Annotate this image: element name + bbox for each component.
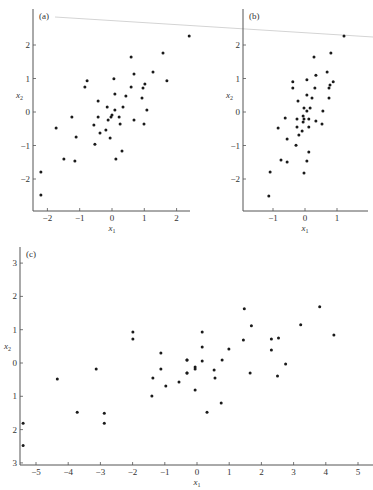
data-point bbox=[39, 194, 42, 197]
data-point bbox=[214, 377, 217, 380]
data-point bbox=[75, 136, 78, 139]
data-point bbox=[22, 444, 25, 447]
data-point bbox=[99, 132, 102, 135]
data-point bbox=[326, 71, 329, 74]
data-point bbox=[321, 123, 324, 126]
data-point bbox=[332, 334, 335, 337]
data-point bbox=[227, 348, 230, 351]
data-point bbox=[311, 96, 314, 99]
panel-label: (a) bbox=[39, 11, 49, 21]
data-point bbox=[159, 368, 162, 371]
x-tick-label: 2 bbox=[259, 467, 264, 477]
data-point bbox=[286, 138, 289, 141]
data-point bbox=[70, 116, 73, 119]
data-point bbox=[321, 110, 324, 113]
data-point bbox=[142, 86, 145, 89]
y-tick-label: 2 bbox=[236, 40, 241, 50]
data-point bbox=[329, 83, 332, 86]
data-point bbox=[270, 349, 273, 352]
y-tick-label: −2 bbox=[230, 174, 240, 184]
data-point bbox=[243, 307, 246, 310]
x-tick-label: 1 bbox=[227, 467, 232, 477]
data-point bbox=[130, 85, 133, 88]
data-point bbox=[318, 305, 321, 308]
data-point bbox=[97, 99, 100, 102]
data-point bbox=[152, 71, 155, 74]
y-tick-label: 2 bbox=[13, 425, 18, 435]
data-point bbox=[307, 150, 310, 153]
y-axis-label: x2 bbox=[15, 90, 23, 101]
data-point bbox=[131, 331, 134, 334]
data-point bbox=[73, 159, 76, 162]
data-point bbox=[291, 80, 294, 83]
data-point bbox=[297, 99, 300, 102]
y-axis-label: x2 bbox=[3, 341, 11, 352]
y-tick-label: 0 bbox=[26, 107, 31, 117]
data-point bbox=[329, 52, 332, 55]
y-tick-label: 0 bbox=[236, 107, 241, 117]
data-point bbox=[22, 422, 25, 425]
x-tick-label: 1 bbox=[335, 213, 340, 223]
data-point bbox=[113, 109, 116, 112]
x-tick-label: 0 bbox=[195, 467, 200, 477]
y-tick-label: 2 bbox=[13, 291, 18, 301]
data-point bbox=[297, 134, 300, 137]
x-tick-label: −1 bbox=[268, 213, 278, 223]
y-tick-label: 0 bbox=[13, 358, 18, 368]
x-tick-label: 2 bbox=[174, 213, 179, 223]
data-point bbox=[194, 368, 197, 371]
data-point bbox=[121, 149, 124, 152]
y-tick-label: 1 bbox=[26, 74, 31, 84]
x-axis-label: x1 bbox=[301, 223, 309, 234]
data-point bbox=[95, 368, 98, 371]
data-point bbox=[143, 82, 146, 85]
data-point bbox=[188, 35, 191, 38]
data-point bbox=[267, 195, 270, 198]
data-point bbox=[164, 385, 167, 388]
y-tick-label: 3 bbox=[13, 258, 18, 268]
data-point bbox=[299, 323, 302, 326]
data-point bbox=[107, 119, 110, 122]
data-point bbox=[106, 106, 109, 109]
data-point bbox=[55, 127, 58, 130]
y-tick-label: −1 bbox=[230, 141, 240, 151]
x-tick-label: −5 bbox=[31, 467, 41, 477]
data-point bbox=[201, 331, 204, 334]
data-point bbox=[328, 86, 331, 89]
scatter-panel-c: (c)−5−4−3−2−10123453210123x1x2 bbox=[3, 247, 373, 488]
data-point bbox=[276, 375, 279, 378]
y-tick-label: 2 bbox=[26, 40, 31, 50]
data-point bbox=[291, 86, 294, 89]
data-point bbox=[307, 126, 310, 129]
scatter-panel-a: (a)−2−1012−2−1012x1x2 bbox=[15, 9, 191, 234]
x-tick-label: 4 bbox=[324, 467, 329, 477]
data-point bbox=[131, 338, 134, 341]
data-point bbox=[162, 52, 165, 55]
data-point bbox=[150, 395, 153, 398]
data-point bbox=[86, 79, 89, 82]
data-point bbox=[62, 157, 65, 160]
data-point bbox=[143, 123, 146, 126]
x-tick-label: −4 bbox=[63, 467, 73, 477]
data-point bbox=[186, 372, 189, 375]
data-point bbox=[133, 119, 136, 122]
panel-label: (b) bbox=[249, 11, 260, 21]
x-tick-label: 1 bbox=[142, 213, 147, 223]
scan-artifact-line bbox=[55, 17, 373, 37]
data-point bbox=[104, 129, 107, 132]
x-tick-label: 0 bbox=[303, 213, 308, 223]
data-point bbox=[250, 324, 253, 327]
data-point bbox=[124, 94, 127, 97]
data-point bbox=[122, 106, 125, 109]
data-point bbox=[141, 96, 144, 99]
x-tick-label: −2 bbox=[43, 213, 53, 223]
x-axis-label: x1 bbox=[193, 477, 201, 488]
data-point bbox=[145, 109, 148, 112]
x-tick-label: 3 bbox=[291, 467, 296, 477]
x-tick-label: −1 bbox=[160, 467, 170, 477]
data-point bbox=[76, 411, 79, 414]
data-point bbox=[284, 117, 287, 120]
data-point bbox=[332, 80, 335, 83]
data-point bbox=[165, 79, 168, 82]
data-point bbox=[114, 157, 117, 160]
